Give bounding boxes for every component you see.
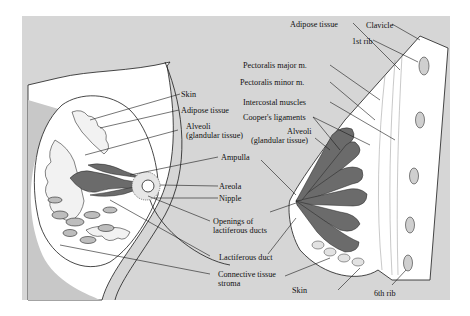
label-coopers-ligaments: Cooper's ligaments [243, 113, 306, 122]
label-pectoralis-minor: Pectoralis minor m. [240, 78, 304, 87]
label-alveoli-right: Alveoli [287, 127, 312, 136]
label-skin-right: Skin [292, 286, 307, 295]
label-connective-tissue: Connective tissue [218, 270, 276, 279]
label-glandular-tissue-left: (glandular tissue) [186, 131, 243, 140]
label-areola: Areola [219, 182, 241, 191]
label-lactiferous-duct: Lactiferous duct [219, 253, 272, 262]
label-clavicle: Clavicle [366, 21, 393, 30]
label-intercostal-muscles: Intercostal muscles [243, 98, 306, 107]
frontal-breast-view [28, 62, 230, 300]
label-1st-rib: 1st rib [352, 37, 373, 46]
label-adipose-tissue-left: Adipose tissue [181, 106, 229, 115]
label-lactiferous-ducts: lactiferous ducts [213, 226, 267, 235]
label-alveoli-left: Alveoli [186, 122, 211, 131]
label-nipple: Nipple [219, 194, 241, 203]
label-openings-of: Openings of [213, 217, 253, 226]
label-stroma: stroma [218, 279, 240, 288]
label-ampulla: Ampulla [221, 153, 250, 162]
label-glandular-tissue-right: (glandular tissue) [251, 136, 308, 145]
label-pectoralis-major: Pectoralis major m. [243, 61, 307, 70]
label-6th-rib: 6th rib [374, 289, 396, 298]
label-adipose-tissue-right: Adipose tissue [290, 20, 338, 29]
label-skin-left: Skin [181, 90, 196, 99]
